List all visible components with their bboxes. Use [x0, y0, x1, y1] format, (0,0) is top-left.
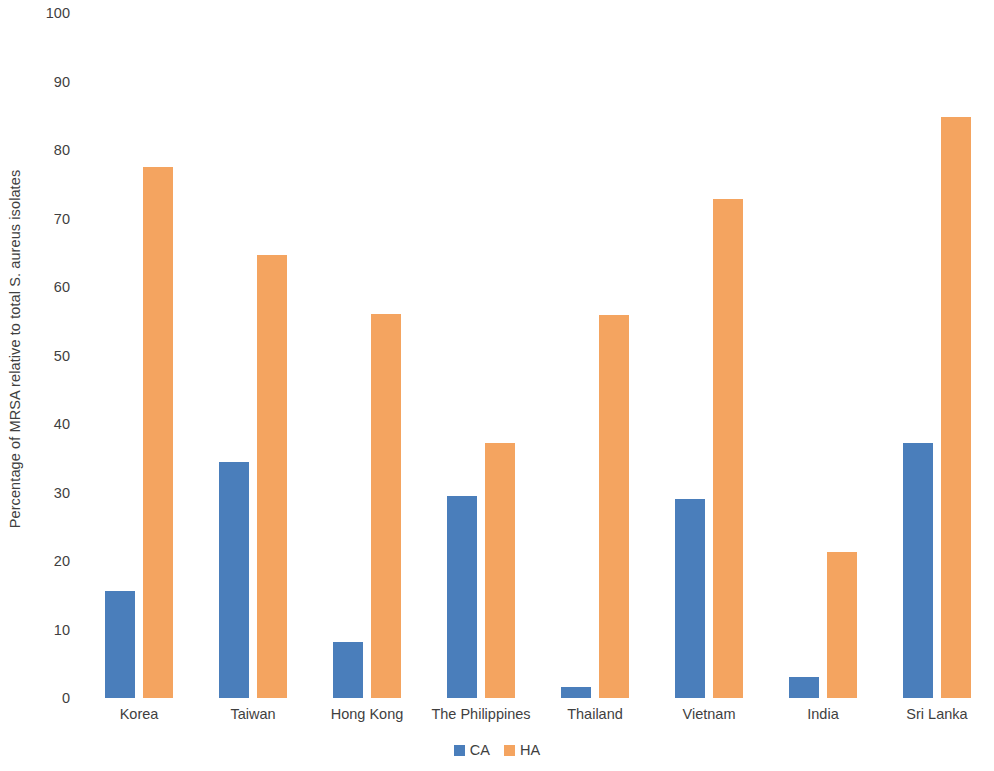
y-axis-tick-label: 0 [62, 690, 70, 706]
legend-swatch-icon [454, 745, 465, 756]
x-axis-category-label: Vietnam [683, 706, 736, 722]
y-axis-tick-label: 40 [54, 416, 70, 432]
bar-ca-taiwan [219, 462, 249, 698]
bar-group [310, 13, 424, 698]
x-axis-category-label: Taiwan [230, 706, 275, 722]
bar-group [880, 13, 994, 698]
bar-ca-india [789, 677, 819, 698]
x-axis-category-label: Hong Kong [331, 706, 404, 722]
y-axis-tick-label: 10 [54, 622, 70, 638]
y-axis-title: Percentage of MRSA relative to total S. … [0, 0, 30, 698]
plot-area [82, 13, 994, 698]
bar-ca-thailand [561, 687, 591, 698]
bar-chart: Percentage of MRSA relative to total S. … [0, 0, 994, 771]
bar-ha-hong-kong [371, 314, 401, 698]
bar-group [424, 13, 538, 698]
y-axis-tick-label: 50 [54, 348, 70, 364]
y-axis-tick-label: 30 [54, 485, 70, 501]
legend-item-ca[interactable]: CA [454, 742, 490, 758]
y-axis-tick-label: 60 [54, 279, 70, 295]
x-axis-category-label: Thailand [567, 706, 623, 722]
x-axis-category-label: The Philippines [431, 706, 530, 722]
chart-legend: CAHA [0, 742, 994, 758]
bar-ha-vietnam [713, 199, 743, 698]
bar-ca-the-philippines [447, 496, 477, 698]
y-axis-tick-label: 100 [46, 5, 70, 21]
bar-group [196, 13, 310, 698]
bar-group [652, 13, 766, 698]
y-axis-tick-label: 90 [54, 74, 70, 90]
bar-ha-the-philippines [485, 443, 515, 699]
x-axis-category-label: India [807, 706, 838, 722]
bar-ca-vietnam [675, 499, 705, 698]
bar-ha-india [827, 552, 857, 698]
legend-item-ha[interactable]: HA [504, 742, 540, 758]
bar-ha-sri-lanka [941, 117, 971, 698]
bar-group [538, 13, 652, 698]
legend-label: CA [470, 742, 490, 758]
bar-ha-korea [143, 167, 173, 698]
bar-ha-taiwan [257, 255, 287, 698]
bar-group [82, 13, 196, 698]
bar-ca-sri-lanka [903, 443, 933, 698]
y-axis-title-text: Percentage of MRSA relative to total S. … [7, 170, 23, 529]
legend-label: HA [520, 742, 540, 758]
y-axis-tick-label: 20 [54, 553, 70, 569]
legend-swatch-icon [504, 745, 515, 756]
y-axis-tick-labels: 1009080706050403020100 [30, 0, 76, 720]
bar-ca-korea [105, 591, 135, 698]
y-axis-tick-label: 80 [54, 142, 70, 158]
x-axis-category-label: Sri Lanka [906, 706, 967, 722]
bar-ca-hong-kong [333, 642, 363, 698]
y-axis-tick-label: 70 [54, 211, 70, 227]
bar-ha-thailand [599, 315, 629, 698]
bar-group [766, 13, 880, 698]
x-axis-category-labels: KoreaTaiwanHong KongThe PhilippinesThail… [82, 700, 994, 734]
x-axis-category-label: Korea [120, 706, 159, 722]
